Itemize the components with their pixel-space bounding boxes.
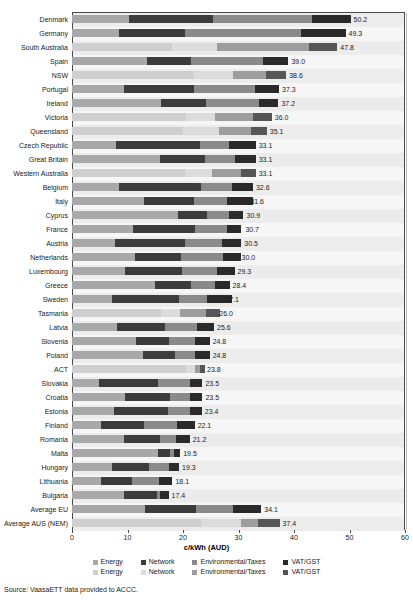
stacked-bar[interactable]: [72, 71, 286, 79]
bar-segment-energy: [72, 211, 178, 219]
stacked-bar[interactable]: [72, 127, 267, 135]
bar-segment-environmental-taxes: [132, 477, 159, 485]
stacked-bar[interactable]: [72, 309, 216, 317]
stacked-bar[interactable]: [72, 183, 253, 191]
stacked-bar[interactable]: [72, 295, 222, 303]
stacked-bar[interactable]: [72, 267, 235, 275]
stacked-bar[interactable]: [72, 57, 288, 65]
bar-segment-energy: [72, 323, 117, 331]
category-label: Luxembourg: [0, 267, 68, 276]
chart-row: Portugal37.3: [0, 82, 413, 95]
bar-value-label: 22.1: [198, 421, 212, 430]
bar-segment-energy: [72, 99, 161, 107]
bar-segment-network: [101, 477, 132, 485]
category-label: Queensland: [0, 127, 68, 136]
stacked-bar[interactable]: [72, 169, 256, 177]
legend-item-vat-gst[interactable]: VAT/GST: [283, 558, 320, 566]
stacked-bar[interactable]: [72, 519, 280, 527]
bar-segment-network: [147, 57, 191, 65]
bar-value-label: 37.4: [283, 519, 297, 528]
bar-value-label: 23.8: [207, 365, 221, 374]
stacked-bar[interactable]: [72, 477, 172, 485]
stacked-bar[interactable]: [72, 351, 210, 359]
stacked-bar[interactable]: [72, 365, 204, 373]
bar-value-label: 17.4: [172, 491, 186, 500]
chart-row: Czech Republic33.1: [0, 138, 413, 151]
stacked-bar[interactable]: [72, 99, 278, 107]
chart-row: Slovenia24.8: [0, 334, 413, 347]
bar-segment-network: [101, 421, 143, 429]
bar-segment-vat-gst: [160, 491, 168, 499]
tick-label-0: 0: [70, 534, 74, 541]
bar-segment-vat-gst: [263, 57, 289, 65]
legend-item-energy[interactable]: Energy: [93, 568, 123, 576]
legend-item-network[interactable]: Network: [141, 568, 175, 576]
chart-row: Latvia25.6: [0, 320, 413, 333]
bar-segment-environmental-taxes: [207, 211, 229, 219]
stacked-bar[interactable]: [72, 197, 247, 205]
stacked-bar[interactable]: [72, 393, 202, 401]
stacked-bar[interactable]: [72, 449, 180, 457]
stacked-bar[interactable]: [72, 463, 179, 471]
bar-segment-environmental-taxes: [212, 169, 241, 177]
stacked-bar[interactable]: [72, 15, 351, 23]
stacked-bar[interactable]: [72, 407, 202, 415]
stacked-bar[interactable]: [72, 141, 256, 149]
bar-segment-network: [115, 239, 185, 247]
bar-segment-environmental-taxes: [169, 337, 195, 345]
category-label: Croatia: [0, 393, 68, 402]
chart-row: ACT23.8: [0, 362, 413, 375]
bar-segment-vat-gst: [241, 169, 255, 177]
legend-item-vat-gst[interactable]: VAT/GST: [283, 568, 320, 576]
bar-segment-energy: [72, 127, 183, 135]
chart-row: Germany49.3: [0, 26, 413, 39]
stacked-bar[interactable]: [72, 421, 195, 429]
stacked-bar[interactable]: [72, 239, 241, 247]
stacked-bar[interactable]: [72, 491, 169, 499]
stacked-bar[interactable]: [72, 29, 346, 37]
bar-segment-network: [112, 295, 179, 303]
bar-segment-vat-gst: [227, 197, 253, 205]
bar-value-label: 39.0: [291, 57, 305, 66]
stacked-bar[interactable]: [72, 323, 214, 331]
stacked-bar[interactable]: [72, 113, 272, 121]
bar-segment-energy: [72, 351, 143, 359]
tick-mark-30: [239, 530, 240, 533]
chart-row: Spain39.0: [0, 54, 413, 67]
stacked-bar[interactable]: [72, 337, 210, 345]
legend-item-energy[interactable]: Energy: [93, 558, 123, 566]
category-label: Slovenia: [0, 337, 68, 346]
bar-segment-energy: [72, 57, 147, 65]
stacked-bar[interactable]: [72, 253, 239, 261]
bar-value-label: 27.1: [225, 295, 239, 304]
stacked-bar[interactable]: [72, 211, 243, 219]
stacked-bar[interactable]: [72, 379, 202, 387]
category-label: Estonia: [0, 407, 68, 416]
bar-segment-network: [125, 267, 182, 275]
bar-segment-network: [145, 505, 197, 513]
bar-segment-energy: [72, 155, 160, 163]
stacked-bar[interactable]: [72, 505, 261, 513]
stacked-bar[interactable]: [72, 225, 242, 233]
stacked-bar[interactable]: [72, 435, 190, 443]
legend-item-network[interactable]: Network: [141, 558, 175, 566]
stacked-bar[interactable]: [72, 43, 337, 51]
bar-value-label: 24.8: [213, 351, 227, 360]
bar-segment-environmental-taxes: [179, 295, 207, 303]
tick-label-30: 30: [235, 534, 243, 541]
stacked-bar[interactable]: [72, 281, 230, 289]
stacked-bar[interactable]: [72, 155, 256, 163]
bar-segment-network: [117, 323, 165, 331]
tick-mark-0: [72, 530, 73, 533]
bar-segment-energy: [72, 169, 185, 177]
bar-segment-network: [183, 127, 219, 135]
legend-item-environmental-taxes[interactable]: Environmental/Taxes: [192, 568, 265, 576]
bar-segment-vat-gst: [309, 43, 337, 51]
legend-item-environmental-taxes[interactable]: Environmental/Taxes: [192, 558, 265, 566]
bar-segment-environmental-taxes: [160, 435, 176, 443]
bar-segment-environmental-taxes: [180, 309, 206, 317]
bar-value-label: 33.1: [259, 141, 273, 150]
chart-row: Tasmania26.0: [0, 306, 413, 319]
stacked-bar[interactable]: [72, 85, 279, 93]
category-label: Lithuania: [0, 477, 68, 486]
